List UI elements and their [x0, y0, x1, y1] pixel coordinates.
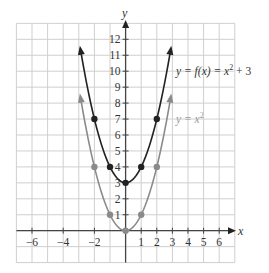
y-tick-label: 5 — [115, 145, 121, 157]
data-point — [154, 164, 160, 170]
x-axis-label: x — [237, 224, 244, 238]
y-tick-label: 11 — [110, 49, 121, 61]
data-point — [138, 212, 144, 218]
y-axis-label: y — [121, 6, 128, 20]
data-point — [138, 164, 144, 170]
x-tick-label: 1 — [138, 236, 144, 248]
y-tick-label: 6 — [115, 129, 121, 141]
data-point — [107, 164, 113, 170]
data-point — [91, 164, 97, 170]
x-tick-label: −2 — [88, 236, 100, 248]
x-tick-label: 6 — [216, 236, 222, 248]
y-tick-label: 1 — [115, 209, 121, 221]
y-tick-label: 12 — [109, 33, 121, 45]
data-point — [122, 180, 128, 186]
series-label-x2-exp: 2 — [200, 111, 204, 120]
data-point — [107, 212, 113, 218]
data-point — [154, 116, 160, 122]
parabola-chart: −6−4−2123456123456789101112 x y y = f(x)… — [0, 0, 269, 273]
y-tick-label: 7 — [115, 113, 121, 125]
plot-area: −6−4−2123456123456789101112 x y y = f(x)… — [0, 0, 269, 273]
series-label-f-tail: + 3 — [233, 65, 251, 77]
series-label-f-main: y = f(x) = x — [175, 65, 230, 78]
y-tick-label: 9 — [115, 81, 121, 93]
x-tick-label: 2 — [154, 236, 160, 248]
axes — [16, 20, 236, 263]
x-tick-label: 4 — [185, 236, 191, 248]
x-tick-label: 5 — [201, 236, 207, 248]
y-tick-label: 2 — [115, 193, 121, 205]
data-point — [91, 116, 97, 122]
x-tick-label: 3 — [170, 236, 176, 248]
series-label-x2-main: y = x — [175, 113, 201, 126]
y-tick-label: 4 — [115, 161, 121, 173]
data-point — [122, 228, 128, 234]
series-label-x2: y = x2 — [175, 111, 204, 126]
series-label-f: y = f(x) = x2 + 3 — [175, 63, 251, 78]
x-tick-label: −4 — [57, 236, 69, 248]
y-tick-label: 10 — [109, 65, 121, 77]
y-tick-label: 8 — [115, 97, 121, 109]
x-tick-label: −6 — [26, 236, 38, 248]
y-axis-arrow-icon — [122, 20, 129, 28]
